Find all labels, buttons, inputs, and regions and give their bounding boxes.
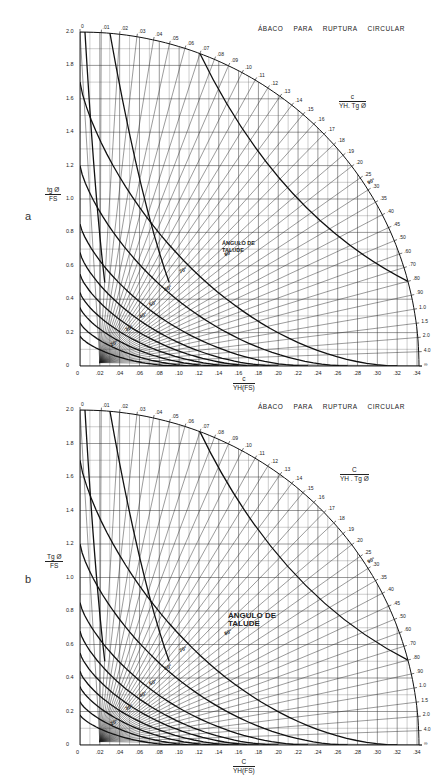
chart-b-arc-tick-label: .01 (103, 402, 110, 408)
chart-a-group (80, 29, 422, 366)
chart-b-arc-tick-label: .70 (409, 640, 416, 646)
chart-a-arc-tick-label: .40 (387, 208, 394, 214)
chart-b-arc-label: C YH . Tg Ø (340, 466, 369, 483)
chart-b-y-tick-label: 1.2 (66, 540, 74, 546)
chart-a-arc-tick-label: 2.0 (423, 332, 430, 338)
chart-b-arc-tick-label: 2.0 (423, 711, 430, 717)
chart-b-arc-tick-label: .03 (139, 406, 146, 412)
chart-b-arc-tick-label: .11 (258, 450, 265, 456)
chart-a-arc-tick-label: 4.0 (424, 347, 431, 353)
chart-a-x-tick-label: .30 (373, 370, 381, 376)
chart-b-group (80, 407, 422, 745)
chart-b-arc-tick-label: .50 (399, 613, 406, 619)
chart-b-arc-tick-label: .06 (187, 418, 194, 424)
chart-b-panel-label: b (25, 573, 31, 585)
chart-a-y-tick-label: 2.0 (66, 28, 74, 34)
chart-b-arc-tick-label: .45 (393, 600, 400, 606)
chart-a-arc-tick-label: .35 (380, 195, 387, 201)
chart-a-arc-tick-label: .14 (295, 97, 302, 103)
chart-a-arc-tick-label: .06 (187, 40, 194, 46)
chart-a-arc-tick-label: .25 (364, 171, 371, 177)
chart-b-arc-tick-label: .12 (271, 458, 278, 464)
chart-a-y-tick-label: 0.2 (66, 329, 74, 335)
chart-b-x-tick-label: .04 (116, 749, 124, 755)
chart-b-y-tick-label: 1.4 (66, 507, 74, 513)
chart-a-x-tick-label: .24 (314, 370, 322, 376)
chart-a-arc-tick-label: .08 (217, 51, 224, 57)
chart-b-arc-tick-label: .04 (155, 409, 162, 415)
chart-b-arc-tick-label: .05 (172, 413, 179, 419)
chart-a-x-tick-label: .20 (274, 370, 282, 376)
chart-b-x-tick-label: .06 (135, 749, 143, 755)
chart-b-slope-annotation: ÁNGULO DE TALUDE (228, 612, 276, 628)
chart-b-arc-tick-label: .35 (380, 574, 387, 580)
chart-b-x-tick-label: .32 (393, 749, 401, 755)
chart-a-x-tick-label: .34 (413, 370, 421, 376)
chart-b-arc-tick-label: .08 (217, 429, 224, 435)
chart-a-arc-tick-label: .16 (317, 116, 324, 122)
chart-a-y-tick-label: 0 (66, 362, 69, 368)
chart-a-arc-tick-label: .90 (416, 289, 423, 295)
chart-b-arc-tick-label: .09 (231, 435, 238, 441)
chart-b-arc-tick-label: .90 (416, 668, 423, 674)
chart-b-arc-tick-label: .80 (413, 654, 420, 660)
chart-b-x-tick-label: .02 (96, 749, 104, 755)
chart-a-x-tick-label: .08 (155, 370, 163, 376)
chart-b-arc-tick-label: .18 (338, 515, 345, 521)
chart-a-x-tick-label: .06 (135, 370, 143, 376)
chart-a-arc-tick-label: .80 (413, 275, 420, 281)
chart-a-arc-tick-label: .12 (271, 80, 278, 86)
chart-a-x-tick-label: .32 (393, 370, 401, 376)
chart-b-x-tick-label: .10 (175, 749, 183, 755)
chart-b-y-tick-label: 1.8 (66, 440, 74, 446)
chart-b-arc-tick-label: .13 (283, 466, 290, 472)
chart-a-x-tick-label: .18 (254, 370, 262, 376)
chart-a-x-tick-label: .02 (96, 370, 104, 376)
chart-a-arc-tick-label: .03 (139, 28, 146, 34)
chart-b-y-tick-label: 1.6 (66, 473, 74, 479)
chart-b-arc-tick-label: .07 (202, 423, 209, 429)
chart-a-arc-tick-label: 1.0 (419, 304, 426, 310)
chart-a-y-tick-label: 1.6 (66, 95, 74, 101)
chart-b-x-tick-label: .08 (155, 749, 163, 755)
chart-a-y-tick-label: 0.8 (66, 228, 74, 234)
chart-a-y-tick-label: 1.8 (66, 61, 74, 67)
chart-b-x-tick-label: .26 (334, 749, 342, 755)
chart-a-y-tick-label: 1.2 (66, 162, 74, 168)
chart-b-x-axis-label: C YH(FS) (233, 758, 255, 775)
chart-a-y-tick-label: 1.4 (66, 128, 74, 134)
chart-a-x-tick-label: .14 (215, 370, 223, 376)
chart-b-arc-tick-label: 4.0 (424, 726, 431, 732)
chart-b-arc-tick-label: .40 (387, 586, 394, 592)
chart-a-arc-tick-label: .18 (338, 137, 345, 143)
chart-b-y-axis-label: Tg Ø FS (45, 553, 63, 570)
chart-a-x-tick-label: .28 (354, 370, 362, 376)
chart-b-y-tick-label: 0.6 (66, 641, 74, 647)
chart-a-x-tick-label: .04 (116, 370, 124, 376)
chart-a-arc-tick-label: .20 (356, 159, 363, 165)
chart-a-arc-tick-label: .70 (409, 261, 416, 267)
chart-a-arc-tick-label: 1.5 (421, 318, 428, 324)
chart-b-arc-tick-label: .20 (356, 537, 363, 543)
chart-canvas (0, 0, 447, 776)
chart-a-arc-tick-label: .07 (202, 45, 209, 51)
chart-b-x-tick-label: .16 (235, 749, 243, 755)
chart-a-arc-tick-label: .11 (258, 72, 265, 78)
chart-a-x-tick-label: .10 (175, 370, 183, 376)
chart-b-x-tick-label: .14 (215, 749, 223, 755)
chart-b-x-tick-label: .34 (413, 749, 421, 755)
chart-a-arc-tick-label: .09 (231, 57, 238, 63)
chart-a-arc-tick-label: .15 (307, 106, 314, 112)
chart-b-arc-tick-label: .60 (404, 626, 411, 632)
chart-b-y-tick-label: 0.2 (66, 708, 74, 714)
chart-a-arc-tick-label: .19 (347, 148, 354, 154)
chart-a-arc-tick-label: .17 (328, 126, 335, 132)
chart-b-y-tick-label: 0 (66, 741, 69, 747)
chart-a-panel-label: a (25, 210, 31, 222)
chart-a-x-tick-label: .16 (235, 370, 243, 376)
chart-a-x-tick-label: .22 (294, 370, 302, 376)
chart-a-y-tick-label: 0.6 (66, 262, 74, 268)
chart-a-arc-tick-label: .50 (399, 234, 406, 240)
chart-a-arc-tick-label: .04 (155, 31, 162, 37)
chart-b-arc-tick-label: .19 (347, 526, 354, 532)
